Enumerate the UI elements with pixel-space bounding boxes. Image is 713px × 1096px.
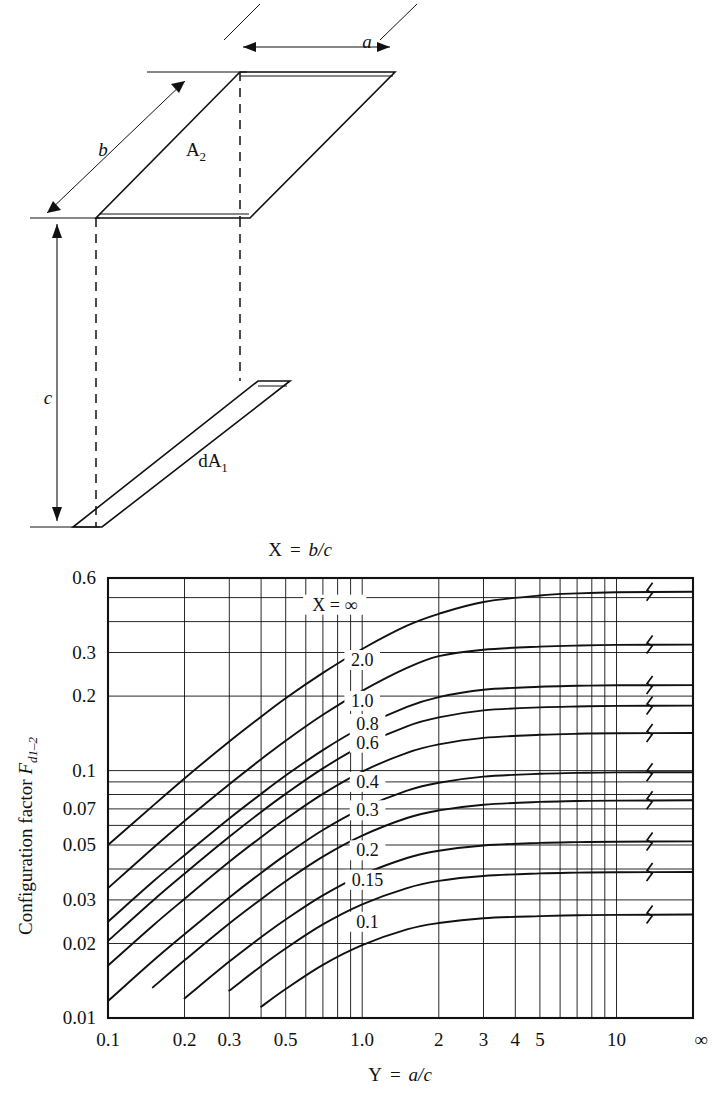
curve-labels: X = ∞2.01.00.80.60.40.30.20.150.1 [303,595,390,932]
x-tick-labels: 0.10.20.30.51.0234510∞ [96,1029,708,1050]
x-tick-label: 3 [479,1029,489,1050]
curve-x-0p1 [261,915,693,1007]
x-tick-label: 2 [434,1029,444,1050]
y-tick-label: 0.2 [72,685,96,706]
y-tick-labels: 0.010.020.030.050.070.10.20.30.6 [63,567,96,1028]
y-tick-label: 0.05 [63,834,96,855]
x-tick-label: 10 [607,1029,626,1050]
x-tick-label: 0.1 [96,1029,120,1050]
dimension-label-a: a [362,31,372,52]
x-tick-label: 0.5 [274,1029,298,1050]
dimension-arrow-c [52,224,62,521]
figure-container: a b c A2 dA1 X=b/c 0.010.020.030.050.070… [0,0,713,1096]
configuration-factor-chart: X=b/c 0.010.020.030.050.070.10.20.30.6 0… [0,536,713,1096]
curve-x-0p15 [229,872,693,991]
ext-line-a-right [380,4,417,40]
y-tick-label: 0.3 [72,642,96,663]
dimension-arrow-b [47,81,185,213]
x-tick-label: 0.2 [173,1029,197,1050]
curve-label-0p15: 0.15 [352,870,384,890]
dimension-label-c: c [44,387,53,408]
curve-label-0p8: 0.8 [356,714,379,734]
x-tick-label: 5 [535,1029,545,1050]
curve-label-0p1: 0.1 [356,912,379,932]
x-tick-label: 4 [511,1029,521,1050]
chart-top-label: X=b/c [268,539,332,560]
curve-label-0p6: 0.6 [356,733,379,753]
plate-label-a2: A2 [186,139,206,164]
curve-label-0p2: 0.2 [356,840,379,860]
y-tick-label: 0.1 [72,760,96,781]
plate-a2-outline [96,72,395,218]
y-tick-label: 0.01 [63,1007,96,1028]
y-tick-label: 0.03 [63,889,96,910]
curve-label-1p0: 1.0 [351,691,374,711]
y-tick-label: 0.6 [72,567,96,588]
x-tick-label-infinity: ∞ [694,1029,708,1050]
dimension-label-b: b [98,139,108,160]
curve-label-∞: X = ∞ [312,595,357,615]
geometry-diagram: a b c A2 dA1 [0,0,713,560]
y-tick-label: 0.07 [63,798,96,819]
curve-label-2p0: 2.0 [351,650,374,670]
curve-label-0p4: 0.4 [356,772,379,792]
y-axis-title: Configuration factor Fd1–2 [15,736,40,935]
x-tick-label: 0.3 [217,1029,241,1050]
curve-label-0p3: 0.3 [356,800,379,820]
strip-label-da1: dA1 [198,450,228,475]
ext-line-a-left [224,4,260,40]
x-axis-title: Y=a/c [368,1064,432,1085]
strip-da1-outline [73,381,290,527]
y-tick-label: 0.02 [63,933,96,954]
x-tick-label: 1.0 [350,1029,374,1050]
